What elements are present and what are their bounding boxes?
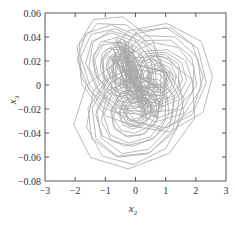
- y-tick-label: 0: [36, 80, 41, 91]
- plot-frame: [45, 13, 226, 181]
- y-tick-label: −0.02: [18, 104, 41, 115]
- y-tick-label: −0.08: [18, 176, 41, 187]
- phase-portrait-chart: −3−2−10123 0.060.040.020−0.02−0.04−0.06−…: [0, 0, 235, 225]
- y-tick-label: 0.04: [24, 32, 42, 43]
- x-tick-label: 1: [163, 185, 168, 196]
- y-tick-label: 0.02: [24, 56, 42, 67]
- x-axis-label: x2: [128, 202, 138, 217]
- attractor-trajectory: [74, 17, 213, 169]
- x-tick-label: −2: [70, 185, 81, 196]
- y-tick-label: −0.04: [18, 128, 41, 139]
- y-tick-label: 0.06: [24, 8, 42, 19]
- y-tick-label: −0.06: [18, 152, 41, 163]
- x-tick-label: 2: [193, 185, 198, 196]
- x-tick-label: −3: [40, 185, 51, 196]
- x-tick-label: 0: [133, 185, 138, 196]
- x-tick-label: 3: [224, 185, 229, 196]
- x-tick-label: −1: [100, 185, 111, 196]
